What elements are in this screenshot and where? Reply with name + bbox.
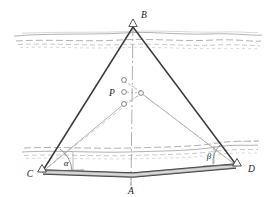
survey-diagram-figure: B C D A P α β [0,0,272,197]
edge-B-C [42,27,133,172]
node-lower-icon [122,102,127,107]
station-marker-B [129,19,137,27]
connector-node-lower-node-right [126,95,140,103]
axis-B-A [131,22,133,186]
diagram-canvas: B C D A P α β [0,0,272,197]
label-A: A [127,186,134,196]
node-right-icon [139,91,144,96]
label-B: B [141,10,147,20]
label-alpha: α [64,158,69,168]
node-center-icon [122,90,127,95]
label-beta: β [206,151,212,161]
label-P: P [108,88,115,98]
terrain-band-lower [22,141,259,159]
label-C: C [27,169,34,179]
label-D: D [247,164,255,174]
sight-C-P [42,104,124,172]
node-upper-icon [122,78,127,83]
edge-B-D [133,27,237,166]
